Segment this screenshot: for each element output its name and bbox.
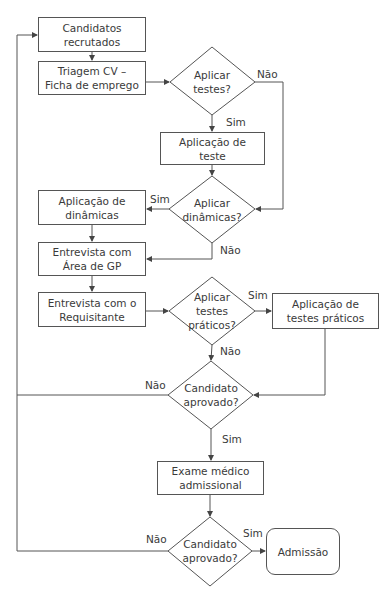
edge-label-dinamicas-sim: Sim (150, 193, 170, 205)
node-aplicacao-teste: Aplicação de teste (160, 132, 265, 165)
node-exame-medico: Exame médico admissional (157, 461, 264, 495)
node-entrevista-requisitante: Entrevista com o Requisitante (38, 292, 146, 327)
diamond-aplicar-praticos-label: Aplicar testes práticos? (172, 288, 252, 334)
edge-label-aprovado2-sim: Sim (243, 527, 263, 539)
edge-label-praticos-sim: Sim (248, 289, 268, 301)
diamond-aplicar-testes-label: Aplicar testes? (172, 64, 252, 100)
edge-label-testes-sim: Sim (226, 116, 246, 128)
node-aplicacao-dinamicas: Aplicação de dinâmicas (38, 190, 146, 225)
node-admissao: Admissão (266, 528, 340, 575)
edge-label-aprovado1-sim: Sim (222, 433, 242, 445)
edge-label-testes-nao: Não (257, 68, 278, 80)
diamond-aprovado-2-label: Candidato aprovado? (170, 533, 250, 569)
edge-label-dinamicas-nao: Não (220, 244, 241, 256)
diamond-aplicar-dinamicas-label: Aplicar dinâmicas? (172, 192, 252, 228)
node-triagem-cv: Triagem CV – Ficha de emprego (38, 61, 146, 95)
node-entrevista-gp: Entrevista com Área de GP (38, 242, 146, 276)
diamond-aprovado-1-label: Candidato aprovado? (171, 377, 251, 413)
edge-label-aprovado2-nao: Não (146, 533, 167, 545)
node-candidatos-recrutados: Candidatos recrutados (38, 17, 146, 52)
edge-label-aprovado1-nao: Não (145, 379, 166, 391)
node-aplicacao-testes-praticos: Aplicação de testes práticos (272, 293, 379, 329)
edge-label-praticos-nao: Não (220, 345, 241, 357)
